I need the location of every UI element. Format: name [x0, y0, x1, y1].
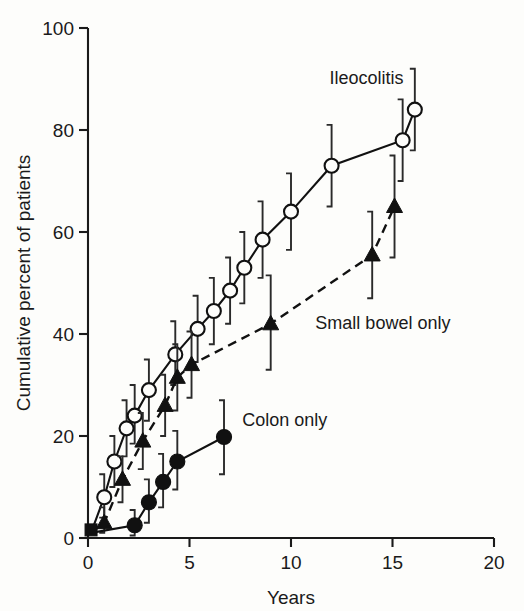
chart-figure: 02040608010005101520YearsCumulative perc… — [0, 0, 524, 611]
series-label-colon-only: Colon only — [242, 410, 327, 430]
data-point-triangle[interactable] — [135, 433, 151, 448]
data-point-open-circle[interactable] — [408, 103, 422, 117]
data-point-filled-circle[interactable] — [141, 495, 156, 510]
series-label-small-bowel-only: Small bowel only — [315, 313, 450, 333]
series-line-small-bowel-only — [91, 207, 395, 533]
data-point-open-circle[interactable] — [191, 322, 205, 336]
data-point-open-circle[interactable] — [128, 409, 142, 423]
x-tick-label: 20 — [483, 552, 504, 573]
x-tick-label: 15 — [382, 552, 403, 573]
data-point-triangle[interactable] — [157, 397, 173, 412]
data-point-open-circle[interactable] — [168, 347, 182, 361]
data-point-open-circle[interactable] — [284, 205, 298, 219]
data-point-open-circle[interactable] — [97, 490, 111, 504]
y-tick-label: 80 — [53, 120, 74, 141]
series-label-ileocolitis: Ileocolitis — [330, 68, 404, 88]
y-tick-label: 0 — [63, 528, 74, 549]
data-point-triangle[interactable] — [387, 198, 403, 213]
data-point-triangle[interactable] — [364, 246, 380, 261]
x-tick-label: 10 — [280, 552, 301, 573]
data-point-open-circle[interactable] — [207, 304, 221, 318]
data-point-triangle[interactable] — [115, 471, 131, 486]
data-point-open-circle[interactable] — [237, 261, 251, 275]
x-tick-label: 0 — [83, 552, 94, 573]
y-tick-label: 40 — [53, 324, 74, 345]
x-tick-label: 5 — [184, 552, 195, 573]
y-tick-label: 60 — [53, 222, 74, 243]
axis-lines — [88, 28, 494, 538]
x-axis-title: Years — [267, 587, 315, 608]
data-point-triangle[interactable] — [263, 315, 279, 330]
data-point-open-circle[interactable] — [396, 133, 410, 147]
y-tick-label: 100 — [42, 18, 74, 39]
data-point-filled-circle[interactable] — [217, 430, 232, 445]
data-point-filled-circle[interactable] — [127, 518, 142, 533]
y-tick-label: 20 — [53, 426, 74, 447]
origin-square-marker[interactable] — [85, 524, 97, 536]
data-point-open-circle[interactable] — [142, 383, 156, 397]
data-point-open-circle[interactable] — [223, 284, 237, 298]
data-point-open-circle[interactable] — [120, 421, 134, 435]
data-point-filled-circle[interactable] — [156, 474, 171, 489]
data-point-filled-circle[interactable] — [170, 454, 185, 469]
data-point-open-circle[interactable] — [325, 159, 339, 173]
y-axis-title: Cumulative percent of patients — [13, 155, 34, 412]
data-point-triangle[interactable] — [96, 514, 112, 529]
data-point-open-circle[interactable] — [256, 233, 270, 247]
